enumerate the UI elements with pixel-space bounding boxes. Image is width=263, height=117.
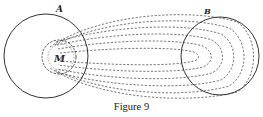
figure-caption: Figure 9 [0, 101, 263, 112]
label-m: M [53, 53, 66, 64]
label-a: A [55, 4, 63, 14]
figure-9-diagram: A B M [0, 0, 263, 117]
label-b: B [203, 6, 211, 16]
field-lines [50, 15, 254, 99]
circle-b [181, 17, 259, 95]
circle-a [4, 14, 88, 98]
